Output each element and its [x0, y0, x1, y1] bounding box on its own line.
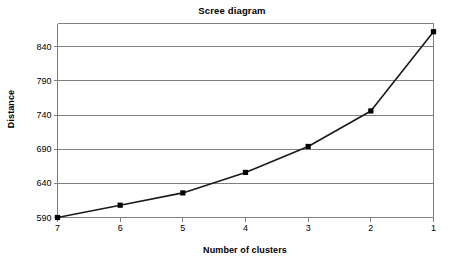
- y-tick-label: 840: [12, 42, 52, 52]
- data-line-series: [58, 32, 434, 218]
- plot-area: [0, 0, 464, 266]
- data-point-marker: [431, 29, 436, 34]
- x-tick-label: 2: [361, 223, 381, 233]
- x-axis-ticks: [58, 218, 434, 222]
- data-point-marker: [180, 190, 185, 195]
- x-tick-label: 5: [173, 223, 193, 233]
- y-tick-label: 640: [12, 178, 52, 188]
- x-tick-label: 3: [298, 223, 318, 233]
- y-tick-label: 590: [12, 213, 52, 223]
- y-tick-label: 790: [12, 76, 52, 86]
- y-tick-label: 740: [12, 110, 52, 120]
- x-tick-label: 4: [236, 223, 256, 233]
- x-tick-label: 6: [110, 223, 130, 233]
- data-point-marker: [243, 170, 248, 175]
- data-point-marker: [55, 215, 60, 220]
- data-point-markers: [55, 29, 436, 220]
- data-point-marker: [368, 108, 373, 113]
- x-tick-label: 7: [48, 223, 68, 233]
- data-point-marker: [306, 144, 311, 149]
- data-point-marker: [118, 203, 123, 208]
- axis-lines: [58, 24, 434, 218]
- y-axis-ticks: [54, 47, 58, 218]
- gridlines: [58, 47, 434, 218]
- scree-diagram-figure: Scree diagram Distance Number of cluster…: [0, 0, 464, 266]
- y-tick-label: 690: [12, 144, 52, 154]
- series-line-distance: [58, 32, 434, 218]
- x-tick-label: 1: [424, 223, 444, 233]
